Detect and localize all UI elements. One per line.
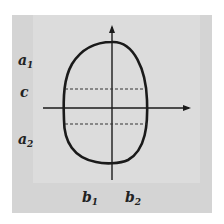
label-a1: a1 bbox=[18, 53, 33, 70]
egg-shaped-curve bbox=[64, 42, 148, 163]
label-b1: b1 bbox=[82, 190, 98, 207]
label-b2: b2 bbox=[125, 190, 141, 207]
label-c: c bbox=[20, 85, 29, 102]
diagram-figure bbox=[0, 0, 224, 224]
label-a2: a2 bbox=[18, 132, 33, 149]
